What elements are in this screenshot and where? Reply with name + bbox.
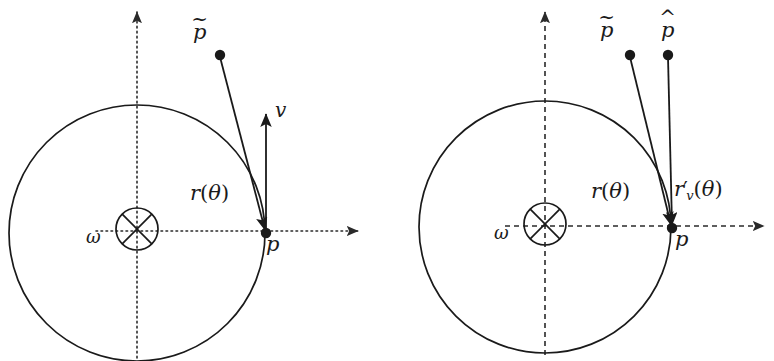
- right-ptilde-label: ~p: [600, 20, 613, 41]
- right-prime-open-paren: (: [694, 177, 702, 201]
- left-ptilde-glyph: ~p: [193, 22, 206, 43]
- left-diagram-group: [9, 12, 358, 361]
- right-close-paren: ): [622, 179, 630, 203]
- right-subscript-v: v: [686, 188, 693, 203]
- right-ptilde-glyph: ~p: [600, 20, 613, 41]
- left-r-theta-label: r(θ): [190, 183, 229, 204]
- right-phat-glyph: ^p: [661, 20, 674, 41]
- right-r-theta-label: r(θ): [591, 181, 630, 202]
- left-close-paren: ): [221, 181, 229, 205]
- left-r-symbol: r: [190, 181, 200, 205]
- right-r-prime-v-theta-label: r′v(θ): [674, 179, 723, 202]
- diagram-canvas: [0, 0, 774, 361]
- right-prime-close-paren: ): [714, 177, 722, 201]
- right-theta-symbol: θ: [609, 179, 622, 203]
- tilde-accent-icon: ~: [598, 8, 615, 28]
- right-phat-dot: [663, 50, 673, 60]
- left-p-label: p: [266, 234, 279, 255]
- left-v-label: v: [275, 100, 286, 120]
- left-ptilde-dot: [215, 50, 225, 60]
- hat-accent-icon: ^: [659, 8, 676, 28]
- right-p-label: p: [675, 229, 688, 250]
- left-omega-label: ω: [86, 228, 101, 246]
- left-ptilde-label: ~p: [193, 22, 206, 43]
- tilde-accent-icon: ~: [191, 10, 208, 30]
- right-ptilde-dot: [625, 50, 635, 60]
- figure-root: ~p v r(θ) ω p ~p ^p r(θ) r′v(θ) ω p: [0, 0, 774, 361]
- right-prime-theta-symbol: θ: [702, 177, 715, 201]
- right-phat-label: ^p: [661, 20, 674, 41]
- left-theta-symbol: θ: [208, 181, 221, 205]
- right-r-symbol: r: [591, 179, 601, 203]
- right-omega-label: ω: [494, 224, 509, 242]
